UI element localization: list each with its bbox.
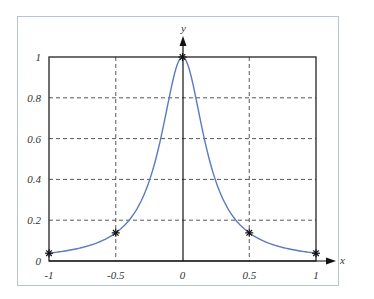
x-tick-label: 0.5 (242, 269, 256, 281)
x-tick-label: 1 (313, 269, 319, 281)
asterisk-marker-icon (112, 229, 120, 237)
y-tick-labels: 00.20.40.60.81 (27, 51, 41, 267)
asterisk-marker-icon (245, 229, 253, 237)
x-tick-label: -0.5 (107, 269, 125, 281)
y-tick-label: 0.2 (27, 214, 41, 226)
asterisk-marker-icon (312, 249, 320, 257)
axes: y x (49, 22, 345, 266)
asterisk-marker-icon (179, 53, 187, 61)
x-tick-labels: -1-0.500.51 (44, 269, 318, 281)
y-axis-label: y (180, 22, 186, 34)
x-tick-label: -1 (44, 269, 53, 281)
asterisk-marker-icon (45, 249, 53, 257)
y-tick-label: 0.4 (27, 173, 41, 185)
x-axis-arrow-icon (326, 258, 336, 265)
line-chart: y x -1-0.500.51 00.20.40.60.81 (0, 0, 374, 299)
y-axis-arrow-icon (180, 36, 187, 46)
x-tick-label: 0 (180, 269, 186, 281)
y-tick-label: 0 (36, 255, 42, 267)
y-tick-label: 0.6 (27, 133, 41, 145)
y-tick-label: 1 (36, 51, 42, 63)
y-tick-label: 0.8 (27, 92, 41, 104)
x-axis-label: x (339, 254, 345, 266)
